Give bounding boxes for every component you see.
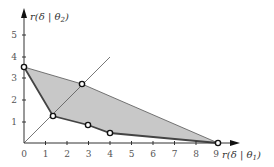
svg-text:6: 6 (150, 149, 156, 159)
svg-text:1: 1 (11, 117, 17, 127)
y-axis-arrow-icon (21, 8, 27, 18)
svg-text:3: 3 (11, 73, 17, 83)
svg-text:0: 0 (21, 149, 27, 159)
svg-text:4: 4 (107, 149, 113, 159)
svg-text:5: 5 (129, 149, 135, 159)
x-ticks: 0 1 2 3 4 5 6 7 8 9 (21, 141, 219, 159)
y-axis-label: r(δ | θ2) (30, 11, 69, 24)
x-axis-arrow-icon (230, 140, 240, 146)
svg-text:8: 8 (193, 149, 199, 159)
svg-text:9: 9 (213, 149, 219, 159)
svg-text:1: 1 (43, 149, 49, 159)
svg-text:5: 5 (11, 30, 17, 40)
svg-text:4: 4 (11, 52, 17, 62)
svg-text:7: 7 (172, 149, 178, 159)
svg-text:2: 2 (64, 149, 70, 159)
risk-set-diagram: 0 1 2 3 4 5 6 7 8 9 1 2 3 4 5 r(δ | θ2) … (0, 0, 274, 167)
svg-text:2: 2 (11, 95, 17, 105)
svg-text:3: 3 (86, 149, 92, 159)
x-axis-label: r(δ | θ1) (222, 149, 261, 162)
risk-set-region (24, 67, 218, 143)
